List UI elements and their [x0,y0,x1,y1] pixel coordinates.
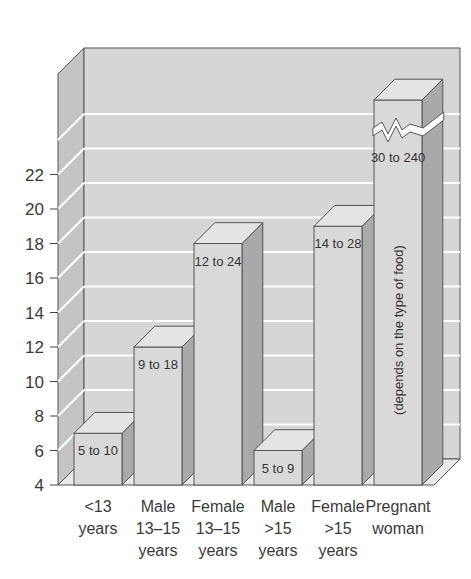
y-tick-label: 6 [35,442,44,461]
category-label: >15 [324,520,351,537]
bar-value-label: 9 to 18 [138,357,178,372]
bar-chart: 46810121416182022 5 to 109 to 1812 to 24… [0,0,471,579]
y-tick-label: 12 [25,338,44,357]
category-label: woman [371,520,424,537]
bar-value-label: 14 to 28 [315,236,362,251]
bar: 5 to 10 [74,412,143,485]
y-tick-label: 16 [25,269,44,288]
category-label: years [138,542,177,559]
bar-value-label: 5 to 9 [262,461,295,476]
bar: 14 to 28 [314,205,383,485]
category-label: 13–15 [136,520,181,537]
category-label: Female [311,498,364,515]
category-label: years [198,542,237,559]
bar-front [314,226,362,485]
bar: 9 to 18 [134,326,203,485]
category-label: <13 [84,498,111,515]
category-label: Male [261,498,296,515]
bar-value-label: 12 to 24 [195,254,242,269]
bar-value-label: 5 to 10 [78,443,118,458]
y-tick-label: 10 [25,373,44,392]
category-label: Pregnant [366,498,431,515]
bar: (depends on the type of food)30 to 240 [371,79,444,485]
vertical-annotation: (depends on the type of food) [391,245,406,415]
category-label: years [78,520,117,537]
bar-front [194,244,242,486]
y-tick-label: 22 [25,166,44,185]
y-axis: 46810121416182022 [25,166,58,496]
category-label: Female [191,498,244,515]
category-label: >15 [264,520,291,537]
category-label: 13–15 [196,520,241,537]
category-label: Male [141,498,176,515]
y-tick-label: 4 [35,476,44,495]
bar-value-label: 30 to 240 [371,150,425,165]
y-tick-label: 8 [35,407,44,426]
side-wall [58,48,84,485]
bar: 12 to 24 [194,223,263,485]
y-tick-label: 18 [25,235,44,254]
category-label: years [318,542,357,559]
x-axis-labels: <13yearsMale13–15yearsFemale13–15yearsMa… [78,498,431,559]
y-tick-label: 14 [25,304,44,323]
y-tick-label: 20 [25,200,44,219]
bar-front [74,433,122,485]
category-label: years [258,542,297,559]
